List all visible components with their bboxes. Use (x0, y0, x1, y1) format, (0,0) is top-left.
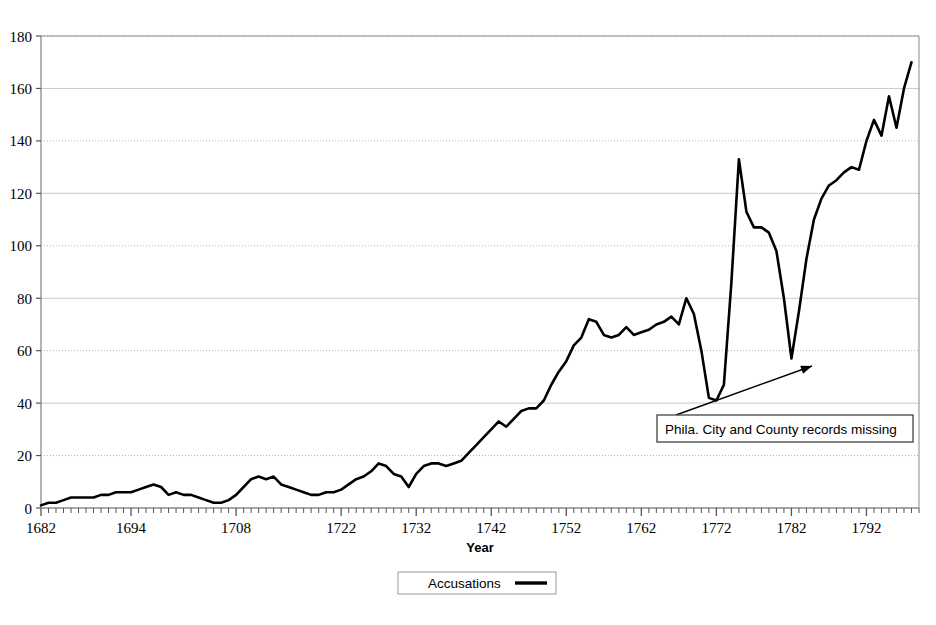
x-tick-label: 1782 (776, 520, 806, 536)
y-tick-label: 100 (10, 238, 33, 254)
y-tick-label: 180 (10, 29, 33, 45)
x-tick-label: 1694 (116, 520, 147, 536)
x-tick-label: 1762 (626, 520, 656, 536)
x-axis-title: Year (466, 540, 493, 555)
y-tick-label: 20 (17, 448, 32, 464)
x-tick-label: 1682 (26, 520, 56, 536)
x-tick-label: 1722 (326, 520, 356, 536)
y-tick-label: 80 (17, 291, 32, 307)
y-tick-label: 60 (17, 343, 32, 359)
y-tick-label: 40 (17, 396, 32, 412)
x-tick-label: 1772 (701, 520, 731, 536)
legend-entry-label: Accusations (428, 576, 501, 591)
x-tick-label: 1752 (551, 520, 581, 536)
y-tick-label: 120 (10, 186, 33, 202)
x-tick-label: 1742 (476, 520, 506, 536)
x-tick-label: 1792 (851, 520, 881, 536)
annotation-label: Phila. City and County records missing (665, 422, 897, 437)
chart-legend: Accusations (398, 572, 556, 594)
y-tick-label: 140 (10, 133, 33, 149)
x-tick-label: 1708 (221, 520, 251, 536)
y-tick-label: 160 (10, 81, 33, 97)
x-tick-label: 1732 (401, 520, 431, 536)
chart-container: 020406080100120140160180 168216941708172… (0, 0, 936, 625)
accusations-line-chart: 020406080100120140160180 168216941708172… (0, 0, 936, 625)
y-tick-label: 0 (25, 501, 33, 517)
